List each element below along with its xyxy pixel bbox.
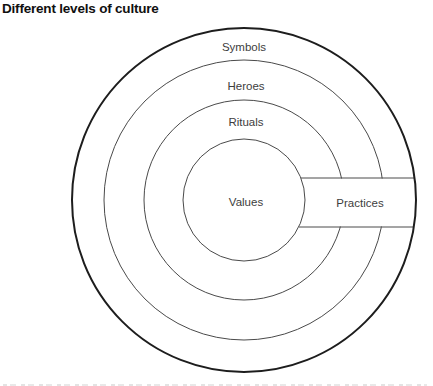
practices-label: Practices [336, 197, 384, 209]
values-label: Values [229, 196, 264, 208]
heroes-label: Heroes [227, 80, 264, 92]
rituals-label: Rituals [228, 116, 263, 128]
culture-onion-diagram: Symbols Heroes Rituals Values Practices [0, 0, 433, 386]
symbols-label: Symbols [222, 41, 266, 53]
